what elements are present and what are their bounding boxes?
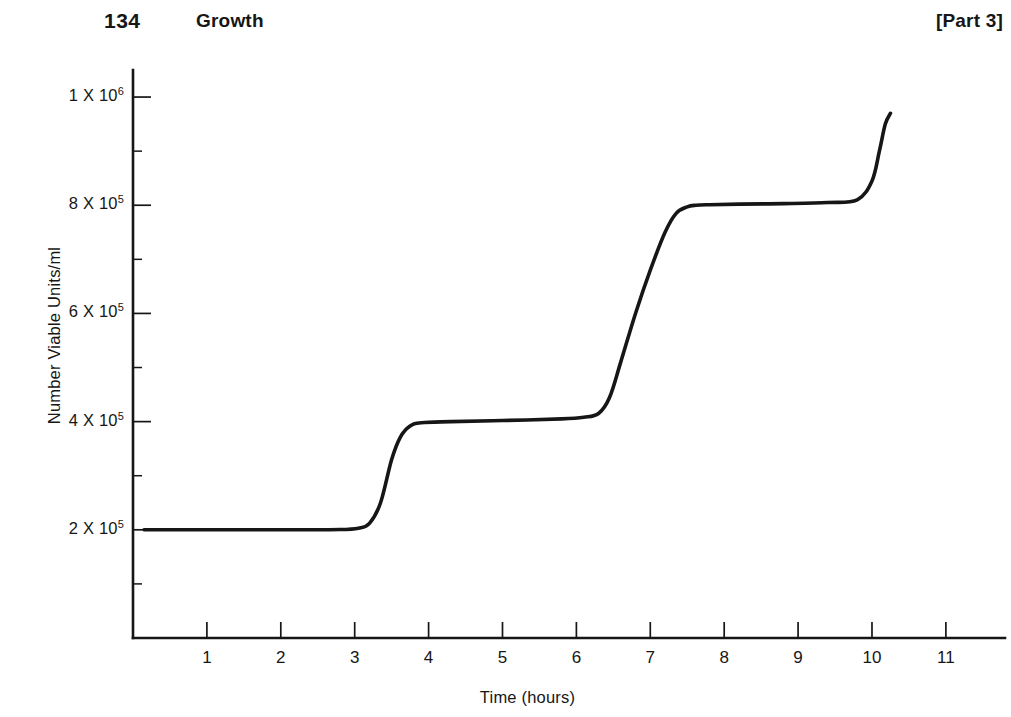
chapter-title: Growth — [196, 10, 264, 32]
page-number: 134 — [104, 9, 141, 33]
x-tick-label: 1 — [177, 648, 237, 668]
x-tick-label: 9 — [768, 648, 828, 668]
x-tick-label: 5 — [472, 648, 532, 668]
x-axis-title: Time (hours) — [0, 688, 1011, 707]
x-tick-label: 2 — [251, 648, 311, 668]
x-tick-label: 3 — [325, 648, 385, 668]
x-tick-label: 7 — [620, 648, 680, 668]
y-axis-title: Number Viable Units/ml — [45, 186, 64, 486]
x-tick-label: 10 — [842, 648, 902, 668]
x-tick-label: 11 — [916, 648, 976, 668]
page-running-head: 134 Growth [Part 3] — [0, 0, 1011, 44]
part-label: [Part 3] — [936, 10, 1003, 32]
x-tick-label: 4 — [399, 648, 459, 668]
x-axis-title-text: Time (hours) — [480, 688, 575, 707]
growth-curve-figure: 2 X 1054 X 1056 X 1058 X 1051 X 106 1234… — [0, 44, 1011, 717]
x-tick-label: 8 — [694, 648, 754, 668]
x-tick-label: 6 — [546, 648, 606, 668]
x-axis-tick-labels: 1234567891011 — [0, 44, 1011, 717]
